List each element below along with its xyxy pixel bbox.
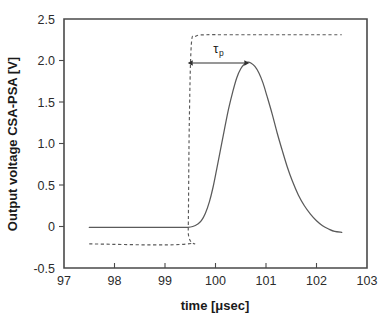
y-tick-label: -0.5 bbox=[33, 262, 55, 276]
chart-figure: -0.500.51.01.52.02.5 979899100101102103 … bbox=[0, 0, 389, 317]
x-tick-label: 101 bbox=[256, 274, 277, 288]
x-axis-ticks: 979899100101102103 bbox=[57, 263, 377, 288]
y-axis-title: Output voltage CSA-PSA [V] bbox=[5, 57, 20, 231]
peaking-time-arrowhead-right bbox=[244, 60, 249, 66]
x-tick-label: 97 bbox=[57, 274, 71, 288]
y-tick-label: 1.0 bbox=[38, 137, 55, 151]
x-tick-label: 98 bbox=[108, 274, 122, 288]
y-tick-label: 2.5 bbox=[38, 13, 55, 27]
series-input-step bbox=[89, 35, 342, 245]
chart-svg: -0.500.51.01.52.02.5 979899100101102103 … bbox=[0, 0, 389, 317]
series-output-pulse bbox=[89, 62, 342, 232]
y-axis-ticks: -0.500.51.01.52.02.5 bbox=[33, 13, 64, 276]
x-tick-label: 103 bbox=[357, 274, 378, 288]
y-tick-label: 1.5 bbox=[38, 96, 55, 110]
peaking-time-label-subscript: p bbox=[219, 48, 224, 58]
chart-series-group bbox=[89, 35, 342, 245]
y-tick-label: 0.5 bbox=[38, 179, 55, 193]
x-tick-label: 99 bbox=[158, 274, 172, 288]
y-tick-label: 0 bbox=[48, 220, 55, 234]
plot-frame bbox=[64, 19, 367, 268]
x-tick-label: 100 bbox=[205, 274, 226, 288]
peaking-time-label: τp bbox=[213, 41, 224, 59]
x-tick-label: 102 bbox=[306, 274, 327, 288]
y-tick-label: 2.0 bbox=[38, 54, 55, 68]
x-axis-title: time [μsec] bbox=[181, 298, 250, 313]
annotation-group: τp bbox=[188, 41, 250, 66]
